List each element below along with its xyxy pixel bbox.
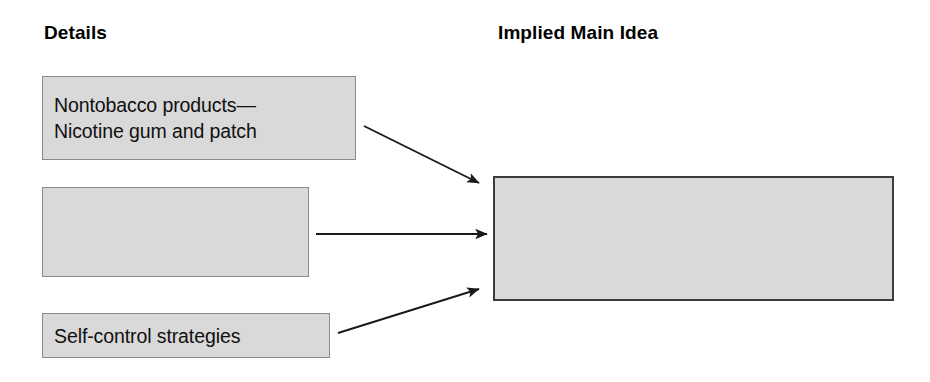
arrow-detail-3-to-main <box>338 289 479 333</box>
detail-box-self-control-strategies[interactable]: Self-control strategies <box>42 313 330 358</box>
diagram-canvas: Details Implied Main Idea Nontobacco pro… <box>0 0 930 382</box>
detail-box-blank[interactable] <box>42 187 309 277</box>
detail-box-self-control-strategies-text: Self-control strategies <box>54 323 240 349</box>
implied-main-idea-heading: Implied Main Idea <box>498 22 658 44</box>
detail-box-nontobacco[interactable]: Nontobacco products— Nicotine gum and pa… <box>42 76 356 160</box>
main-idea-box[interactable] <box>493 176 894 301</box>
detail-box-nontobacco-text: Nontobacco products— Nicotine gum and pa… <box>54 92 257 144</box>
details-heading: Details <box>44 22 107 44</box>
arrow-detail-1-to-main <box>364 126 479 183</box>
